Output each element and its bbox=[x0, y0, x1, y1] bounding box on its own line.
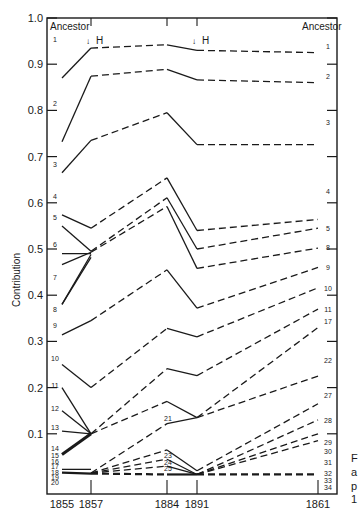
mid-ancestor-label: 25 bbox=[164, 465, 172, 472]
series-line-23 bbox=[197, 404, 318, 471]
h-annotation: H bbox=[202, 35, 209, 46]
y-axis: 1.00.90.80.70.60.50.40.30.20.1 bbox=[28, 12, 337, 440]
x-axis: 18551857188418911861↓H↓H bbox=[50, 18, 330, 510]
y-tick-label: 0.2 bbox=[28, 382, 43, 394]
left-ancestor-label: 4 bbox=[53, 193, 57, 200]
series-line-9 bbox=[62, 321, 91, 335]
left-ancestor-label: 1 bbox=[53, 36, 57, 43]
series-line-15-16 bbox=[91, 401, 167, 433]
caption-text: a bbox=[351, 466, 358, 478]
y-tick-label: 1.0 bbox=[28, 12, 43, 24]
mid-ancestor-label: 23 bbox=[164, 452, 172, 459]
right-ancestor-label: 28 bbox=[324, 417, 332, 424]
left-ancestor-label: 6 bbox=[53, 241, 57, 248]
series-line-8b bbox=[62, 257, 91, 304]
series-line-11 bbox=[197, 309, 318, 376]
right-ancestor-label: 5 bbox=[326, 225, 330, 232]
x-tick-label: 1891 bbox=[185, 498, 209, 510]
y-tick-label: 0.5 bbox=[28, 243, 43, 255]
contribution-line-chart: 1.00.90.80.70.60.50.40.30.20.1 185518571… bbox=[0, 0, 364, 515]
right-ancestor-label: 34 bbox=[324, 484, 332, 491]
left-ancestor-label: 9 bbox=[53, 322, 57, 329]
right-ancestor-label: 4 bbox=[326, 188, 330, 195]
h-annotation: H bbox=[96, 35, 103, 46]
y-axis-label: Contribution bbox=[11, 253, 22, 307]
right-ancestor-label: 27 bbox=[324, 392, 332, 399]
series-line-18-20 bbox=[62, 473, 91, 474]
series-line-2 bbox=[197, 80, 318, 83]
series-line-2 bbox=[62, 76, 91, 142]
left-ancestor-label: 7 bbox=[53, 274, 57, 281]
right-ancestor-label: 1 bbox=[326, 43, 330, 50]
series-line-4 bbox=[197, 219, 318, 230]
series-line-10 bbox=[91, 328, 167, 387]
series-line-3 bbox=[62, 140, 91, 172]
caption-fragment: Fap1 bbox=[351, 452, 358, 505]
left-ancestor-label: 20 bbox=[51, 479, 59, 486]
right-ancestor-label: 30 bbox=[324, 448, 332, 455]
ancestor-labels: 1234567891011121314151617181920123458910… bbox=[51, 36, 332, 491]
series-lines bbox=[62, 45, 318, 475]
series-line-21 bbox=[197, 376, 318, 418]
series-line-11 bbox=[167, 369, 197, 376]
right-ancestor-label: 31 bbox=[324, 459, 332, 466]
right-ancestor-label: 8 bbox=[326, 244, 330, 251]
series-line-12 bbox=[62, 411, 91, 434]
series-line-2 bbox=[91, 69, 167, 76]
series-line-13 bbox=[62, 431, 91, 434]
right-ancestor-header: Ancestor bbox=[302, 21, 342, 32]
right-ancestor-label: 11 bbox=[324, 306, 331, 313]
left-ancestor-label: 8 bbox=[53, 306, 57, 313]
series-line-3 bbox=[91, 113, 167, 141]
series-line-4 bbox=[62, 215, 91, 228]
right-ancestor-label: 10 bbox=[324, 285, 332, 292]
series-line-9 bbox=[91, 270, 167, 321]
series-line-9 bbox=[167, 270, 197, 308]
y-tick-label: 0.8 bbox=[28, 104, 43, 116]
right-ancestor-label: 2 bbox=[326, 73, 330, 80]
x-tick-label: 1855 bbox=[50, 498, 74, 510]
series-line-3 bbox=[167, 113, 197, 145]
left-ancestor-label: 10 bbox=[51, 355, 59, 362]
series-line-11 bbox=[62, 388, 91, 434]
series-line-25 bbox=[197, 434, 318, 475]
right-ancestor-label: 17 bbox=[324, 318, 332, 325]
left-ancestor-label: 5 bbox=[53, 214, 57, 221]
left-ancestor-header: Ancestor bbox=[50, 21, 90, 32]
series-line-18-20 bbox=[91, 474, 167, 475]
y-tick-label: 0.4 bbox=[28, 289, 43, 301]
series-line-4 bbox=[91, 178, 167, 228]
x-tick-label: 1884 bbox=[155, 498, 179, 510]
series-line-1 bbox=[197, 50, 318, 52]
left-ancestor-label: 13 bbox=[51, 424, 59, 431]
series-line-7 bbox=[167, 206, 197, 268]
right-ancestor-label: 29 bbox=[324, 439, 332, 446]
series-line-5 bbox=[91, 198, 167, 252]
left-ancestor-label: 11 bbox=[51, 382, 58, 389]
series-line-10 bbox=[167, 328, 197, 336]
caption-text: 1 bbox=[351, 493, 357, 505]
x-tick-label: 1861 bbox=[306, 498, 330, 510]
series-line-10 bbox=[62, 365, 91, 388]
series-line-2 bbox=[167, 69, 197, 80]
series-line-5 bbox=[197, 228, 318, 249]
y-tick-label: 0.7 bbox=[28, 151, 43, 163]
x-tick-label: 1857 bbox=[79, 498, 103, 510]
arrow-down-icon: ↓ bbox=[192, 37, 196, 46]
y-tick-label: 0.6 bbox=[28, 197, 43, 209]
left-ancestor-label: 3 bbox=[53, 161, 57, 168]
right-ancestor-label: 22 bbox=[324, 357, 332, 364]
series-line-10 bbox=[197, 288, 318, 337]
caption-text: F bbox=[351, 452, 358, 464]
series-line-5 bbox=[62, 226, 91, 251]
arrow-down-icon: ↓ bbox=[86, 37, 90, 46]
series-line-1 bbox=[62, 48, 91, 78]
left-ancestor-label: 12 bbox=[51, 405, 59, 412]
y-tick-label: 0.1 bbox=[28, 428, 43, 440]
right-ancestor-label: 9 bbox=[326, 264, 330, 271]
series-line-24 bbox=[197, 420, 318, 475]
left-ancestor-label: 2 bbox=[53, 100, 57, 107]
series-line-7 bbox=[91, 206, 167, 252]
series-line-7 bbox=[197, 248, 318, 268]
caption-text: p bbox=[351, 480, 357, 492]
